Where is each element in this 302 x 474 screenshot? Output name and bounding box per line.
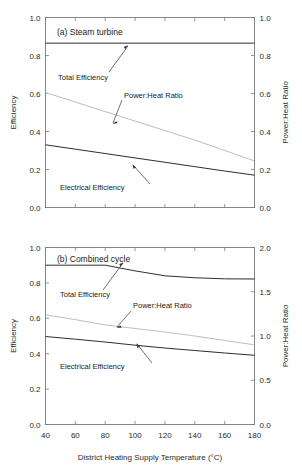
tick-label: 1.0 xyxy=(29,244,41,253)
tick-label: 160 xyxy=(218,431,232,440)
annotation-power-heat-ratio-b: Power:Heat Ratio xyxy=(133,301,192,310)
tick-label: 1.0 xyxy=(29,14,41,23)
tick-label: 180 xyxy=(248,431,262,440)
left-axis-title-a: Efficiency xyxy=(9,95,18,129)
series-line-total-efficiency-b xyxy=(46,265,255,279)
series-line-electrical-efficiency-b xyxy=(46,337,255,356)
panel-caption-a: (a) Steam turbine xyxy=(57,27,123,37)
tick-label: 0.0 xyxy=(29,204,41,213)
left-axis-tick-labels-b: 0.00.20.40.60.81.0 xyxy=(29,244,41,430)
tick-label: 0.6 xyxy=(260,90,272,99)
annotation-electrical-efficiency-a: Electrical Efficiency xyxy=(60,183,125,192)
chart-panel-a: 0.00.20.40.60.81.0 0.00.20.40.60.81.0 Ef… xyxy=(0,0,302,232)
series-line-power-heat-ratio-b xyxy=(46,315,255,345)
tick-label: 0.6 xyxy=(29,314,41,323)
tick-label: 1.0 xyxy=(260,14,272,23)
left-axis-ticks-a xyxy=(46,18,50,208)
tick-label: 120 xyxy=(158,431,172,440)
x-axis-title: District Heating Supply Temperature (°C) xyxy=(78,453,223,462)
tick-label: 0.4 xyxy=(29,350,41,359)
annotation-total-efficiency-a: Total Efficiency xyxy=(58,73,108,82)
tick-label: 0.0 xyxy=(260,204,272,213)
chart-b-svg: 0.00.20.40.60.81.0 0.00.51.01.52.0 40608… xyxy=(0,232,302,474)
panel-caption-b: (b) Combined cycle xyxy=(57,254,130,264)
chart-panel-b: 0.00.20.40.60.81.0 0.00.51.01.52.0 40608… xyxy=(0,232,302,474)
plot-area-frame-a xyxy=(46,18,255,208)
tick-label: 0.4 xyxy=(260,128,272,137)
bottom-axis-ticks-a xyxy=(46,18,255,208)
tick-label: 0.2 xyxy=(260,166,272,175)
right-axis-tick-labels-a: 0.00.20.40.60.81.0 xyxy=(260,14,272,213)
tick-label: 0.0 xyxy=(260,421,272,430)
leader-line-power-heat-ratio-b xyxy=(117,311,131,327)
annotation-electrical-efficiency-b: Electrical Efficiency xyxy=(60,362,125,371)
tick-label: 0.8 xyxy=(29,52,41,61)
right-axis-title-a: Power:Heat Ratio xyxy=(281,81,290,144)
tick-label: 0.8 xyxy=(29,279,41,288)
chart-a-svg: 0.00.20.40.60.81.0 0.00.20.40.60.81.0 Ef… xyxy=(0,0,302,232)
right-axis-title-b: Power:Heat Ratio xyxy=(281,304,290,367)
tick-label: 140 xyxy=(188,431,202,440)
tick-label: 0.5 xyxy=(260,376,272,385)
right-axis-ticks-b xyxy=(251,248,255,425)
series-line-electrical-efficiency-a xyxy=(46,145,255,175)
tick-label: 0.0 xyxy=(29,421,41,430)
tick-label: 0.2 xyxy=(29,385,41,394)
tick-label: 0.4 xyxy=(29,128,41,137)
right-axis-tick-labels-b: 0.00.51.01.52.0 xyxy=(260,244,272,430)
left-axis-ticks-b xyxy=(46,248,50,425)
tick-label: 40 xyxy=(41,431,50,440)
leader-line-power-heat-ratio-a xyxy=(113,100,122,123)
left-axis-tick-labels-a: 0.00.20.40.60.81.0 xyxy=(29,14,41,213)
tick-label: 1.0 xyxy=(260,332,272,341)
annotation-power-heat-ratio-a: Power:Heat Ratio xyxy=(124,91,183,100)
left-axis-title-b: Efficiency xyxy=(9,319,18,353)
series-line-power-heat-ratio-a xyxy=(46,93,255,161)
tick-label: 0.8 xyxy=(260,52,272,61)
bottom-axis-ticks-b xyxy=(46,248,255,425)
tick-label: 100 xyxy=(128,431,142,440)
annotation-total-efficiency-b: Total Efficiency xyxy=(60,290,110,299)
tick-label: 0.6 xyxy=(29,90,41,99)
leader-line-total-efficiency-a xyxy=(109,46,128,72)
plot-area-frame-b xyxy=(46,248,255,425)
tick-label: 1.5 xyxy=(260,288,272,297)
tick-label: 0.2 xyxy=(29,166,41,175)
figure-container: 0.00.20.40.60.81.0 0.00.20.40.60.81.0 Ef… xyxy=(0,0,302,474)
right-axis-ticks-a xyxy=(251,18,255,208)
tick-label: 60 xyxy=(71,431,80,440)
tick-label: 80 xyxy=(101,431,110,440)
bottom-axis-tick-labels-b: 406080100120140160180 xyxy=(41,431,262,440)
tick-label: 2.0 xyxy=(260,244,272,253)
